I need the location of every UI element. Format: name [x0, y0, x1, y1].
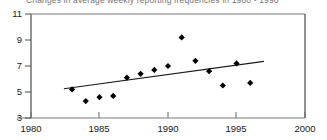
y-tick-label-11: 11 [12, 8, 22, 19]
data-point-marker [96, 94, 102, 100]
trend-line [64, 61, 264, 88]
data-point-marker [110, 93, 116, 99]
x-tick-label-2000: 2000 [294, 123, 315, 134]
x-axis-tick-labels: 1980 1985 1990 1995 2000 [20, 123, 315, 134]
data-point-series [69, 34, 253, 104]
data-point-marker [192, 58, 198, 64]
x-tick-label-1985: 1985 [88, 123, 109, 134]
data-point-marker [83, 98, 89, 104]
x-axis-ticks [31, 112, 305, 118]
plot-frame [17, 14, 305, 118]
y-tick-label-5: 5 [17, 86, 22, 97]
y-tick-label-7: 7 [17, 60, 22, 71]
y-axis-ticks [25, 14, 31, 118]
data-point-marker [138, 71, 144, 77]
data-point-marker [165, 63, 171, 69]
y-tick-label-3: 3 [17, 112, 22, 123]
y-axis-tick-labels: 11 9 7 5 3 [12, 8, 22, 123]
x-tick-label-1990: 1990 [157, 123, 178, 134]
chart-plot-area: 11 9 7 5 3 1980 1985 1990 1995 2000 [0, 0, 327, 140]
data-point-marker [151, 67, 157, 73]
x-tick-label-1980: 1980 [20, 123, 41, 134]
data-point-marker [247, 80, 253, 86]
chart-container: Changes in average weekly reporting freq… [0, 0, 327, 140]
y-tick-label-9: 9 [17, 34, 22, 45]
x-tick-label-1995: 1995 [225, 123, 246, 134]
data-point-marker [179, 34, 185, 40]
data-point-marker [220, 82, 226, 88]
